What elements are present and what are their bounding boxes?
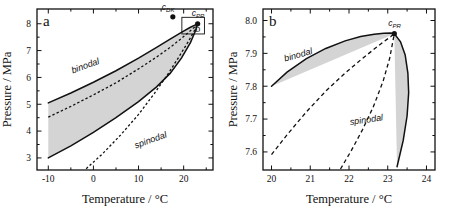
x-tick-label: 20 [267, 174, 277, 184]
x-tick-label: 20 [179, 174, 189, 184]
critical-point-PR-marker [392, 31, 397, 36]
y-tick-label: 8 [26, 19, 31, 29]
panel-b-plot: 20212223247.67.77.87.98.0Temperature / °… [226, 0, 452, 216]
y-tick-label: 7.9 [245, 49, 257, 59]
panel-a-full-phase-diagram: -1001020345678Temperature / °CPressure /… [0, 0, 226, 216]
x-tick-label: 21 [306, 174, 316, 184]
x-axis-title: Temperature / °C [306, 192, 392, 206]
y-tick-label: 3 [26, 153, 31, 163]
y-tick-label: 8.0 [245, 16, 257, 26]
y-tick-label: 7.8 [245, 82, 257, 92]
two-phase-shaded-region [48, 24, 197, 158]
inset-region-label: b [195, 24, 200, 34]
x-tick-label: 0 [91, 174, 96, 184]
critical-point-DK-label: cDK [162, 2, 176, 13]
y-axis-title: Pressure / MPa [0, 51, 14, 127]
x-tick-label: 23 [383, 174, 393, 184]
curve-label-binodal: binodal [70, 56, 102, 76]
x-tick-label: -10 [42, 174, 55, 184]
panel-b-critical-region-zoom: 20212223247.67.77.87.98.0Temperature / °… [226, 0, 452, 216]
y-tick-label: 7 [26, 46, 31, 56]
y-tick-label: 6 [26, 73, 31, 83]
panel-a-plot: -1001020345678Temperature / °CPressure /… [0, 0, 226, 216]
x-tick-label: 24 [422, 174, 432, 184]
y-tick-label: 7.7 [245, 114, 257, 124]
panel-letter: b [269, 13, 277, 29]
plot-area [48, 24, 197, 169]
x-tick-label: 22 [344, 174, 354, 184]
x-tick-label: 10 [134, 174, 144, 184]
spinodal-lower-branch [340, 34, 394, 169]
y-tick-label: 4 [26, 126, 31, 136]
phase-diagram-figure: -1001020345678Temperature / °CPressure /… [0, 0, 452, 216]
panel-letter: a [43, 13, 50, 29]
curve-label-spinodal: spinodal [133, 129, 169, 150]
critical-point-PR-label: cPR [388, 18, 401, 29]
curve-label-spinodal: spinodal [349, 112, 385, 127]
y-tick-label: 5 [26, 100, 31, 110]
y-tick-label: 7.6 [245, 147, 257, 157]
y-axis-title: Pressure / MPa [226, 51, 240, 127]
critical-point-DK-marker [170, 14, 175, 19]
x-axis-title: Temperature / °C [82, 192, 168, 206]
